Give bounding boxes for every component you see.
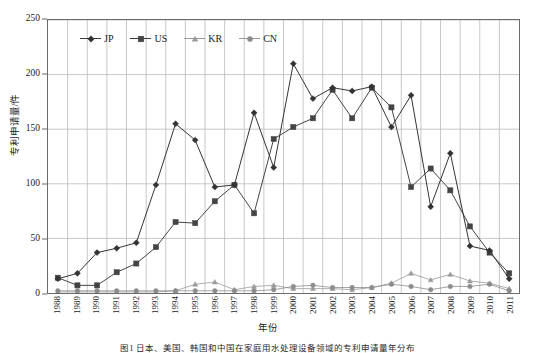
series-jp (55, 61, 512, 282)
chart-legend: JPUSKRCN (80, 33, 277, 44)
series-kr (55, 271, 511, 293)
x-axis-title: 年份 (0, 320, 535, 334)
y-tick-label: 250 (26, 14, 40, 24)
y-tick-label: 100 (26, 179, 40, 189)
x-tick-label: 2003 (348, 296, 357, 314)
legend-item-cn[interactable]: CN (239, 33, 277, 44)
legend-circle-icon (239, 38, 260, 39)
x-tick-label: 1999 (269, 296, 278, 314)
y-tick-label: 200 (26, 69, 40, 79)
x-tick-label: 2009 (466, 296, 475, 314)
x-tick-label: 1994 (171, 296, 180, 314)
series-cn (56, 282, 512, 293)
legend-label: CN (263, 33, 277, 44)
legend-item-us[interactable]: US (130, 33, 167, 44)
x-tick-label: 1996 (210, 296, 219, 314)
legend-label: KR (208, 33, 222, 44)
x-tick-label: 2004 (368, 296, 377, 314)
y-tick-label: 0 (35, 289, 40, 299)
legend-label: US (154, 33, 167, 44)
x-tick-label: 2006 (407, 296, 416, 314)
x-tick-label: 2010 (486, 296, 495, 314)
legend-diamond-icon (80, 38, 101, 39)
x-tick-label: 2007 (427, 296, 436, 314)
figure-caption: 图1 日本、美国、韩国和中国在家庭用水处理设备领域的专利申请量年分布 (0, 341, 535, 353)
legend-item-kr[interactable]: KR (184, 33, 222, 44)
x-tick-label: 2005 (387, 296, 396, 314)
legend-item-jp[interactable]: JP (80, 33, 113, 44)
legend-label: JP (104, 33, 113, 44)
x-tick-label: 2001 (309, 296, 318, 314)
x-tick-label: 1991 (111, 296, 120, 314)
x-tick-label: 2000 (289, 296, 298, 314)
x-tick-label: 1997 (230, 296, 239, 314)
legend-square-icon (130, 38, 151, 39)
x-tick-label: 1990 (92, 296, 101, 314)
plot-area (47, 19, 520, 294)
x-tick-label: 1995 (190, 296, 199, 314)
y-tick-label: 50 (31, 234, 41, 244)
x-tick-label: 1988 (52, 296, 61, 314)
data-series-layer (48, 20, 519, 293)
x-tick-label: 1989 (72, 296, 81, 314)
y-tick-label: 150 (26, 124, 40, 134)
x-tick-label: 2002 (328, 296, 337, 314)
x-tick-label: 1992 (131, 296, 140, 314)
x-tick-label: 1998 (249, 296, 258, 314)
y-axis-title: 专利申请量/件 (7, 85, 21, 165)
x-tick-label: 2008 (447, 296, 456, 314)
legend-triangle-icon (184, 38, 205, 39)
x-tick-label: 2011 (506, 296, 515, 314)
x-tick-label: 1993 (151, 296, 160, 314)
